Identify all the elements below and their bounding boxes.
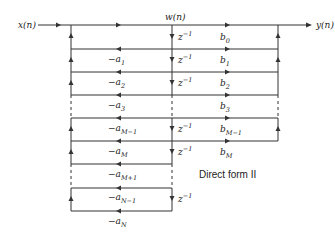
svg-text:b3: b3 [220, 101, 230, 114]
delay-labels: z−1 z−1 z−1 z−1 z−1 z−1 [177, 30, 192, 204]
diagram-caption: Direct form II [199, 169, 256, 180]
svg-text:−a3: −a3 [108, 100, 125, 113]
svg-text:b2: b2 [220, 78, 230, 91]
delay-m-minus-1: z−1 [177, 122, 192, 134]
svg-text:−aM−1: −aM−1 [108, 123, 137, 136]
svg-text:−aN: −aN [108, 216, 127, 229]
flow-lines [38, 23, 312, 214]
svg-text:−aN−1: −aN−1 [108, 192, 136, 205]
output-label: y(n) [315, 20, 334, 30]
svg-text:−aM+1: −aM+1 [108, 169, 137, 182]
svg-text:b0: b0 [220, 32, 230, 45]
svg-text:bM−1: bM−1 [220, 124, 242, 137]
svg-text:−aM: −aM [108, 146, 128, 159]
delay-2: z−1 [177, 53, 192, 65]
state-label: w(n) [165, 12, 186, 22]
svg-text:−a2: −a2 [108, 77, 125, 90]
svg-text:bM: bM [220, 147, 233, 160]
svg-text:b1: b1 [220, 55, 230, 68]
direct-form-ii-diagram: x(n) y(n) w(n) z−1 z−1 z−1 z−1 z−1 z−1 −… [0, 0, 335, 234]
input-label: x(n) [18, 20, 36, 30]
delay-1: z−1 [177, 30, 192, 42]
delay-3: z−1 [177, 76, 192, 88]
delay-n: z−1 [177, 192, 192, 204]
svg-text:−a1: −a1 [108, 54, 125, 67]
delay-m: z−1 [177, 145, 192, 157]
